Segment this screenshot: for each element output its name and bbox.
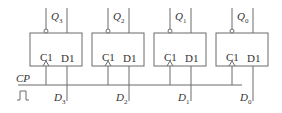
q1-inversion-bubble [168,29,172,33]
q2-label: Q2 [113,10,125,25]
q2-inversion-bubble [106,29,110,33]
q1-label: Q1 [175,10,187,25]
d3-label: D3 [53,91,66,106]
q0-label: Q0 [237,10,249,25]
ff0-data-pin: D1 [247,52,260,64]
flip-flop-0: Q0 C1 D1 D0 [216,8,268,106]
ff3-data-pin: D1 [61,52,74,64]
flip-flop-2: Q2 C1 D1 D2 [92,8,144,106]
d2-label: D2 [115,91,128,106]
flip-flop-1: Q1 C1 D1 D1 [154,8,206,106]
register-diagram: CP Q3 C1 D1 D3 Q2 C1 D1 D2 Q1 C1 [0,0,282,113]
flip-flop-3: Q3 C1 D1 D3 [30,8,82,106]
q0-inversion-bubble [230,29,234,33]
q3-label: Q3 [51,10,63,25]
d1-label: D1 [177,91,190,106]
clock-label: CP [16,72,30,84]
ff2-data-pin: D1 [123,52,136,64]
ff1-data-pin: D1 [185,52,198,64]
pulse-icon [17,91,29,100]
d0-label: D0 [239,91,252,106]
q3-inversion-bubble [44,29,48,33]
